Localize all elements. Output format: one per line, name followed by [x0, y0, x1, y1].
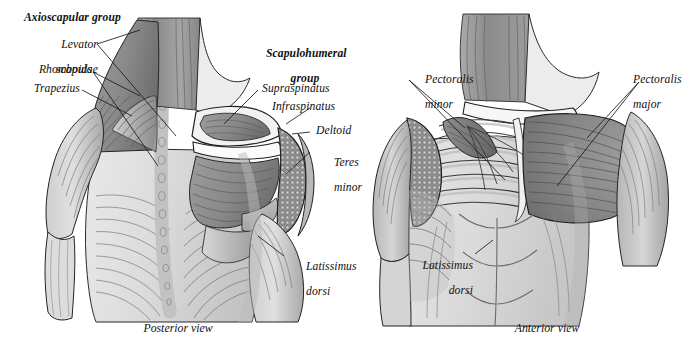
posterior-view-caption: Posterior view — [98, 321, 258, 336]
latissimus-dorsi-anterior-line1: Latissimus — [422, 259, 473, 272]
rhomboids-label: Rhomboids — [4, 64, 92, 76]
pectoralis-minor-line2: minor — [425, 98, 453, 111]
levator-scapulae-label: Levator scapulae — [10, 27, 98, 89]
deltoid-cut-stump — [277, 128, 314, 236]
anterior-neck — [460, 14, 599, 124]
right-arm-anterior — [617, 112, 669, 266]
pectoralis-minor-line1: Pectoralis — [425, 73, 474, 86]
pectoralis-major-line1: Pectoralis — [633, 73, 682, 86]
latissimus-dorsi-posterior-line2: dorsi — [306, 285, 330, 298]
supraspinatus-label: Supraspinatus — [262, 83, 330, 95]
pectoralis-major-line2: major — [633, 98, 661, 111]
scapulohumeral-group-line1: Scapulohumeral — [266, 47, 347, 60]
latissimus-dorsi-anterior-label: Latissimus dorsi — [353, 248, 473, 310]
anatomy-plate: Axioscapular group Levator scapulae Rhom… — [0, 0, 694, 346]
infraspinatus-label: Infraspinatus — [272, 101, 335, 113]
latissimus-dorsi-anterior-line2: dorsi — [449, 284, 473, 297]
pectoralis-major-label: Pectoralis major — [615, 62, 682, 124]
levator-scapulae-line1: Levator — [61, 38, 98, 51]
anterior-view-caption: Anterior view — [467, 321, 627, 336]
pectoralis-minor-label: Pectoralis minor — [407, 62, 474, 124]
panel-anterior: Pectoralis minor Pectoralis major Latiss… — [347, 0, 694, 346]
axioscapular-group-heading: Axioscapular group — [24, 12, 121, 24]
panel-posterior: Axioscapular group Levator scapulae Rhom… — [0, 0, 347, 346]
trapezius-label: Trapezius — [0, 83, 80, 95]
